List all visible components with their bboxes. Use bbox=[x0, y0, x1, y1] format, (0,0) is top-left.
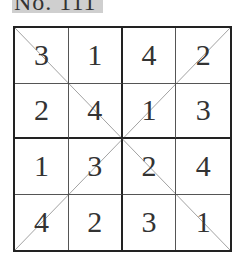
grid-cell[interactable]: 4 bbox=[176, 139, 230, 195]
grid-cell[interactable]: 4 bbox=[123, 28, 177, 84]
sudoku-grid: 3 1 4 2 2 4 1 3 1 3 2 4 4 2 3 1 bbox=[13, 26, 232, 252]
grid-cell[interactable]: 3 bbox=[123, 195, 177, 251]
grid-cell[interactable]: 2 bbox=[123, 139, 177, 195]
grid-cell[interactable]: 2 bbox=[176, 28, 230, 84]
grid-cell[interactable]: 1 bbox=[123, 84, 177, 140]
grid-cell[interactable]: 1 bbox=[69, 28, 123, 84]
grid-cell[interactable]: 2 bbox=[69, 195, 123, 251]
puzzle-number-label: No. 111 bbox=[12, 0, 103, 13]
grid-cell[interactable]: 4 bbox=[69, 84, 123, 140]
grid-cell[interactable]: 1 bbox=[15, 139, 69, 195]
grid-cell[interactable]: 2 bbox=[15, 84, 69, 140]
grid-cell[interactable]: 3 bbox=[176, 84, 230, 140]
grid-cell[interactable]: 4 bbox=[15, 195, 69, 251]
grid-cell[interactable]: 3 bbox=[69, 139, 123, 195]
grid-cell[interactable]: 1 bbox=[176, 195, 230, 251]
grid-cell[interactable]: 3 bbox=[15, 28, 69, 84]
